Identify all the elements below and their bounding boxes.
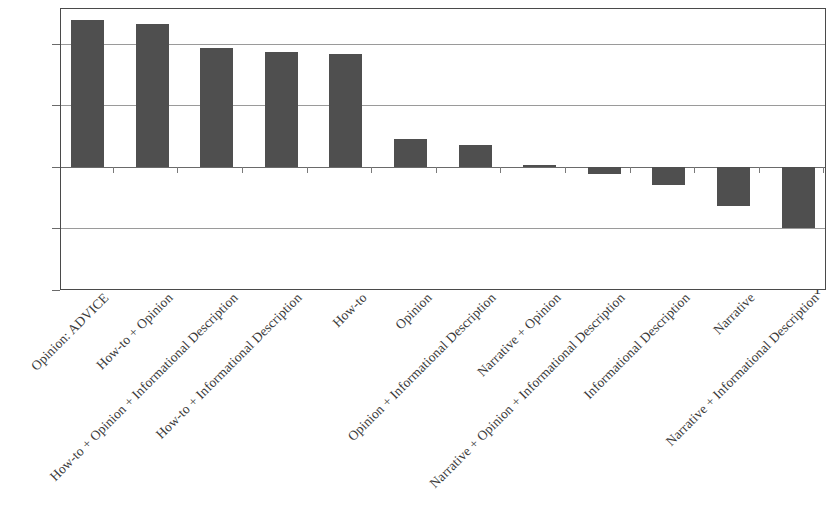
x-axis-label: Narrative — [710, 290, 757, 337]
x-tick-mark — [371, 167, 372, 173]
gridline-0-5 — [61, 105, 825, 106]
x-axis-label: How-to + Informational Description — [153, 290, 305, 442]
y-tick-mark — [52, 44, 60, 45]
gridline-neg-0-5 — [61, 228, 825, 229]
x-tick-mark — [823, 167, 824, 173]
bar — [588, 167, 621, 174]
bar — [652, 167, 685, 185]
x-tick-mark — [242, 167, 243, 173]
x-axis-label: Opinion — [392, 290, 434, 332]
y-tick-mark — [52, 228, 60, 229]
bar — [329, 54, 362, 167]
x-tick-mark — [177, 167, 178, 173]
bar — [782, 167, 815, 228]
bar — [71, 20, 104, 167]
x-axis-label: Informational Description — [581, 290, 693, 402]
gridline-zero — [61, 167, 825, 168]
x-axis-label: How-to — [329, 290, 369, 330]
y-tick-mark — [52, 167, 60, 168]
bar — [523, 165, 556, 167]
x-tick-mark — [759, 167, 760, 173]
x-tick-mark — [436, 167, 437, 173]
x-tick-mark — [113, 167, 114, 173]
bar — [394, 139, 427, 167]
gridline-1 — [61, 44, 825, 45]
bar — [717, 167, 750, 206]
x-tick-mark — [694, 167, 695, 173]
x-tick-mark — [565, 167, 566, 173]
bar — [136, 24, 169, 167]
x-axis-category-labels: Opinion: ADVICEHow-to + OpinionHow-to + … — [0, 290, 821, 525]
bar — [459, 145, 492, 167]
bar — [200, 48, 233, 167]
x-tick-mark — [307, 167, 308, 173]
plot-area — [60, 8, 826, 290]
x-tick-mark — [500, 167, 501, 173]
bar — [265, 52, 298, 167]
x-tick-mark — [630, 167, 631, 173]
y-tick-mark — [52, 105, 60, 106]
